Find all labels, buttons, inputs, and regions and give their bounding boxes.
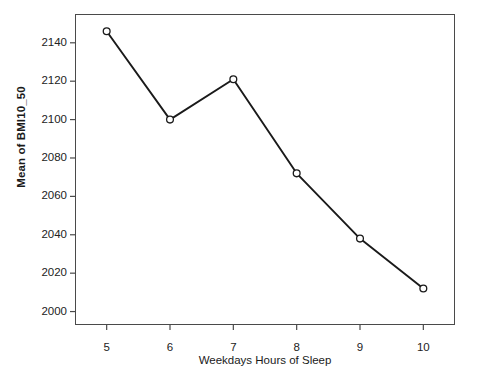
data-series-layer <box>103 28 426 292</box>
data-point-marker <box>293 170 300 177</box>
axis-tick-marks <box>70 43 423 330</box>
series-line <box>107 31 424 288</box>
data-point-marker <box>230 76 237 83</box>
data-point-marker <box>357 235 364 242</box>
line-chart-canvas <box>0 0 478 382</box>
data-point-marker <box>103 28 110 35</box>
chart-page: Mean of BMI10_50 Weekdays Hours of Sleep… <box>0 0 478 382</box>
data-point-marker <box>167 116 174 123</box>
data-point-marker <box>420 285 427 292</box>
